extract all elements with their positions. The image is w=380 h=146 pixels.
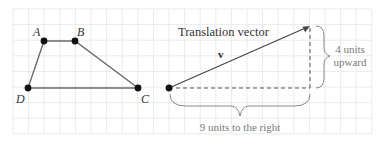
vector-title: Translation vector [178,25,270,39]
vertex-label-d: D [15,92,25,106]
vector-start-point [166,85,173,92]
vertical-brace-label-line1: 4 units [335,43,365,55]
vertex-label-a: A [32,25,41,39]
vertex-point-d [25,85,32,92]
vertex-label-c: C [141,92,150,106]
horizontal-brace-label: 9 units to the right [200,121,281,133]
translation-diagram: ABCD Translation vector v 9 units to the… [0,0,380,146]
background [0,0,380,146]
vertical-brace-label-line2: upward [334,56,367,68]
vertex-point-c [135,85,142,92]
vector-label: v [218,48,224,60]
vertex-point-a [41,38,48,45]
vertex-label-b: B [77,25,85,39]
